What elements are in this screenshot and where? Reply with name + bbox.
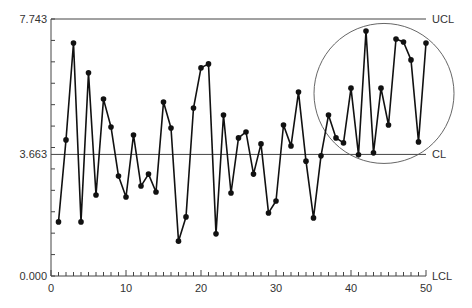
data-point	[348, 85, 354, 91]
data-point	[71, 40, 77, 46]
data-point	[228, 190, 234, 196]
data-point	[356, 152, 362, 158]
data-point	[333, 135, 339, 141]
x-tick-label: 0	[48, 282, 54, 294]
data-point	[258, 141, 264, 147]
data-point	[168, 125, 174, 131]
data-point	[416, 139, 422, 145]
x-tick-label: 30	[270, 282, 282, 294]
data-point	[401, 39, 407, 45]
data-point	[251, 171, 257, 177]
data-point	[138, 183, 144, 189]
data-point	[161, 99, 167, 105]
data-point	[206, 61, 212, 67]
limit-label-lcl: LCL	[432, 270, 452, 282]
y-tick-label: 3.663	[19, 148, 47, 160]
data-point	[326, 112, 332, 118]
data-point	[393, 36, 399, 42]
data-point	[221, 112, 227, 118]
data-line	[59, 31, 427, 241]
data-point	[146, 171, 152, 177]
data-point	[191, 105, 197, 111]
data-point	[341, 140, 347, 146]
data-point	[101, 96, 107, 102]
data-point	[93, 192, 99, 198]
data-point	[176, 238, 182, 244]
data-point	[198, 65, 204, 71]
data-point	[303, 158, 309, 164]
highlight-circle	[314, 23, 454, 163]
data-point	[318, 153, 324, 159]
limit-label-cl: CL	[432, 148, 446, 160]
data-point	[386, 122, 392, 128]
data-point	[378, 85, 384, 91]
data-point	[108, 124, 114, 130]
data-point	[296, 89, 302, 95]
data-point	[63, 137, 69, 143]
limit-label-ucl: UCL	[432, 13, 454, 25]
data-point	[131, 132, 137, 138]
data-point	[183, 214, 189, 220]
x-tick-label: 40	[345, 282, 357, 294]
data-point	[423, 40, 429, 46]
data-point	[153, 189, 159, 195]
data-point	[311, 215, 317, 221]
data-point	[243, 129, 249, 135]
data-point	[281, 122, 287, 128]
y-tick-label: 7.743	[19, 13, 47, 25]
data-point	[213, 231, 219, 237]
data-point	[408, 57, 414, 63]
control-chart: 01020304050UCL7.743CL3.663LCL0.000	[0, 0, 472, 308]
x-tick-label: 20	[195, 282, 207, 294]
data-point	[363, 28, 369, 34]
x-tick-label: 10	[120, 282, 132, 294]
data-point	[266, 210, 272, 216]
data-point	[116, 173, 122, 179]
data-point	[56, 219, 62, 225]
data-point	[86, 70, 92, 76]
y-tick-label: 0.000	[19, 270, 47, 282]
data-point	[371, 150, 377, 156]
data-point	[236, 135, 242, 141]
data-point	[78, 219, 84, 225]
data-point	[288, 143, 294, 149]
chart-canvas: 01020304050UCL7.743CL3.663LCL0.000	[0, 0, 472, 308]
x-tick-label: 50	[420, 282, 432, 294]
data-point	[273, 198, 279, 204]
data-point	[123, 194, 129, 200]
